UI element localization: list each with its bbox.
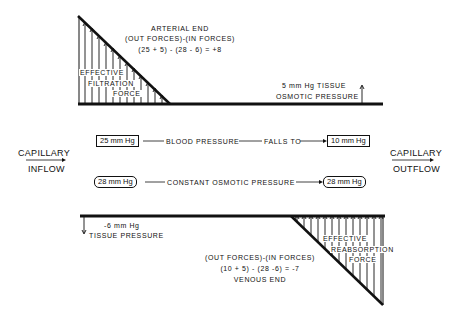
capillary-outflow-label-2: OUTFLOW bbox=[393, 165, 440, 174]
tissue-osmotic-line2: OSMOTIC PRESSURE bbox=[276, 93, 359, 100]
osmotic-label: CONSTANT OSMOTIC PRESSURE bbox=[167, 179, 295, 186]
filtration-label-2: FILTRATION bbox=[87, 80, 135, 87]
tissue-osmotic-arrow bbox=[360, 85, 364, 103]
reabsorption-label-1: EFFECTIVE bbox=[322, 235, 368, 242]
arterial-formula-line2: (25 + 5) - (28 - 6) = +8 bbox=[120, 46, 240, 53]
arterial-formula-line1: (OUT FORCES)-(IN FORCES) bbox=[120, 35, 240, 42]
tissue-pressure-value: -6 mm Hg bbox=[104, 222, 140, 229]
blood-pressure-end-value: 10 mm Hg bbox=[327, 135, 370, 147]
capillary-outflow-label-1: CAPILLARY bbox=[390, 149, 442, 158]
osmotic-start-value: 28 mm Hg bbox=[94, 176, 137, 188]
filtration-label-1: EFFECTIVE bbox=[79, 69, 125, 76]
blood-pressure-start-value: 25 mm Hg bbox=[96, 135, 139, 147]
capillary-inflow-label-1: CAPILLARY bbox=[18, 149, 70, 158]
reabsorption-label-3: FORCE bbox=[348, 256, 378, 263]
venous-end-title: VENOUS END bbox=[220, 276, 300, 283]
tissue-pressure-label: TISSUE PRESSURE bbox=[89, 232, 164, 239]
venous-formula-line1: (OUT FORCES)-(IN FORCES) bbox=[200, 254, 320, 261]
capillary-inflow-label-2: INFLOW bbox=[28, 165, 65, 174]
blood-pressure-falls-to: FALLS TO bbox=[264, 138, 301, 145]
venous-formula-line2: (10 + 5) - (28 -6) = -7 bbox=[200, 265, 320, 272]
arterial-end-title: ARTERIAL END bbox=[130, 25, 230, 32]
tissue-pressure-arrow bbox=[82, 216, 86, 234]
reabsorption-label-2: REABSORPTION bbox=[330, 246, 395, 253]
blood-pressure-label: BLOOD PRESSURE bbox=[166, 138, 239, 145]
filtration-label-3: FORCE bbox=[112, 90, 142, 97]
tissue-osmotic-line1: 5 mm Hg TISSUE bbox=[282, 82, 346, 89]
osmotic-end-value: 28 mm Hg bbox=[323, 176, 366, 188]
